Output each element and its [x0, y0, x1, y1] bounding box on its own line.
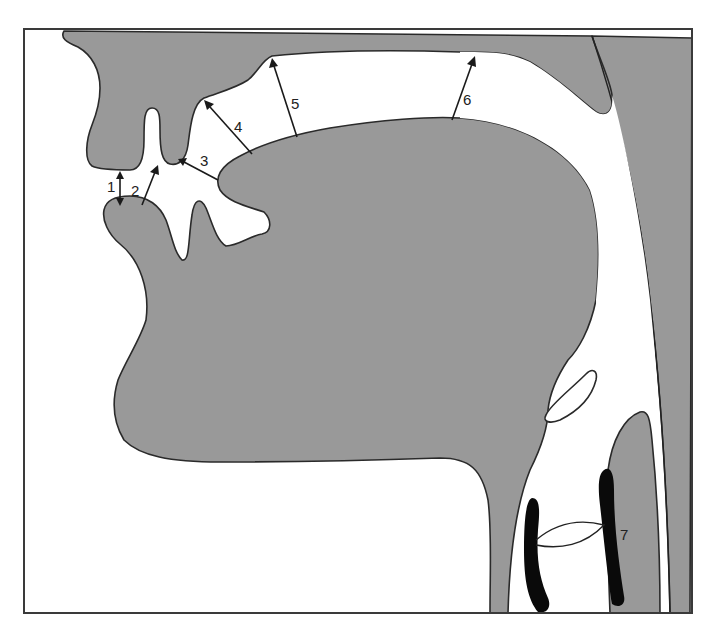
label-3: 3: [200, 152, 208, 169]
label-4: 4: [234, 118, 242, 135]
label-6: 6: [463, 91, 471, 108]
vocal-tract-diagram: 1 2 3 4 5 6 7: [0, 0, 715, 637]
label-2: 2: [131, 182, 139, 199]
label-5: 5: [291, 95, 299, 112]
label-1: 1: [107, 178, 115, 195]
label-7: 7: [620, 526, 628, 543]
